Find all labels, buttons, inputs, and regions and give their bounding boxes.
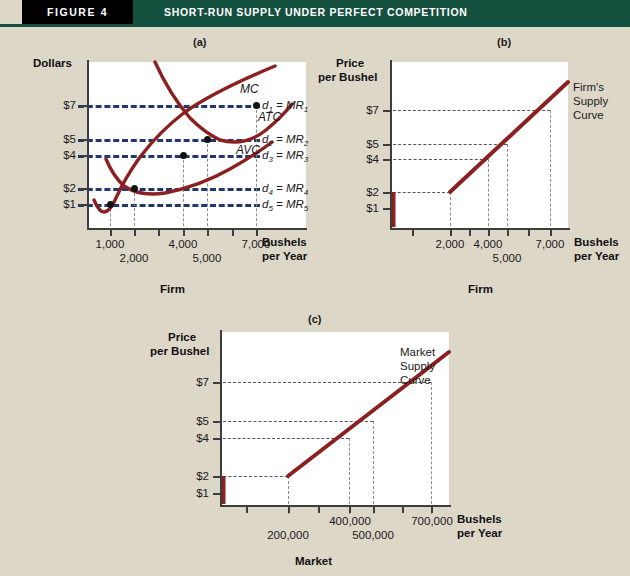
panel-c-ytick-2 (213, 476, 220, 478)
panel-c-ytick-label-7: $7 (173, 376, 209, 388)
panel-c-ytick-label-1: $1 (173, 487, 209, 499)
panel-c-ytick-label-2: $2 (173, 470, 209, 482)
panel-c-curve-label-line2: Supply (400, 359, 435, 373)
panel-c-xtick-500k (373, 506, 375, 513)
panel-c-x-axis-title-line1: Bushels (457, 513, 502, 526)
panel-c-ytick-5 (213, 421, 220, 423)
panel-c-ytick-label-5: $5 (173, 415, 209, 427)
panel-c-ytick-7 (213, 382, 220, 384)
panel-c-xtick-400k (349, 506, 351, 513)
panel-c-y-axis (220, 330, 222, 507)
panel-c-curve-label-line1: Market (400, 345, 435, 359)
panel-c-xtick-label-700k: 700,000 (400, 515, 464, 527)
panel-c-xtick-label-200k: 200,000 (256, 529, 320, 541)
panel-c-curve-label-line3: Curve (400, 373, 431, 387)
panel-c-xtick-200k (288, 506, 290, 513)
panel-c-xtick-300k (318, 506, 320, 513)
panel-c-caption: Market (295, 555, 332, 567)
panel-c-x-axis (220, 505, 451, 507)
panel-c-ytick-4 (213, 438, 220, 440)
panel-c-xtick-label-400k: 400,000 (318, 515, 382, 527)
page-bottom-spacer (0, 570, 630, 576)
panel-c-ytick-1 (213, 493, 220, 495)
panel-c-xtick-100k (246, 506, 248, 513)
panel-c-xtick-label-500k: 500,000 (341, 529, 405, 541)
panel-c-ytick-label-4: $4 (173, 432, 209, 444)
panel-c-supply-curve (0, 0, 630, 576)
panel-c-xtick-700k (431, 506, 433, 513)
panel-c-xtick-600k (402, 506, 404, 513)
panel-c-x-axis-title-line2: per Year (457, 527, 502, 540)
